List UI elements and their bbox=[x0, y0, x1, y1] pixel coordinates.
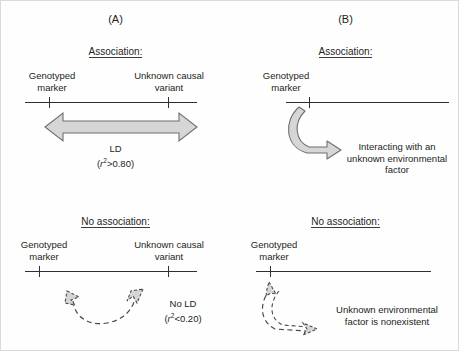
panel-b-noassociation-annotation: Unknown environmental factor is nonexist… bbox=[319, 304, 455, 327]
figure-container: (A) Association: Genotyped marker Unknow… bbox=[0, 0, 459, 351]
panel-b: (B) Association: Genotyped marker Intera… bbox=[231, 1, 459, 351]
panel-a-noassociation-annotation-line2: (r2<0.20) bbox=[141, 310, 225, 325]
panel-a-noassociation-annotation-line1: No LD bbox=[141, 298, 225, 310]
panel-a-noassociation-annotation: No LD (r2<0.20) bbox=[141, 298, 225, 324]
no-ld-threshold: <0.20) bbox=[174, 313, 201, 324]
panel-a: (A) Association: Genotyped marker Unknow… bbox=[1, 1, 230, 351]
nonexistent-dashed-arrow-icon bbox=[231, 1, 459, 351]
panel-b-noassociation-annotation-line2: factor is nonexistent bbox=[319, 316, 455, 328]
panel-b-noassociation-annotation-line1: Unknown environmental bbox=[319, 304, 455, 316]
